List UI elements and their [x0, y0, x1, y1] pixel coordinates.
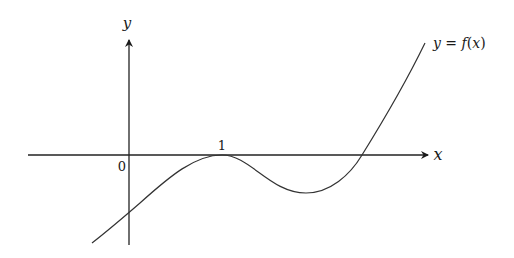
curve-label-eq: =: [441, 35, 462, 51]
curve-label-arg: x: [472, 35, 480, 51]
curve-label: y = f(x): [432, 35, 486, 51]
curve-f: [92, 43, 425, 243]
function-graph: y x 0 1 y = f(x): [0, 0, 514, 258]
origin-label: 0: [118, 159, 126, 174]
x-axis-label: x: [433, 145, 442, 164]
tick-label-1: 1: [218, 138, 226, 153]
curve-label-close: ): [480, 35, 485, 51]
y-axis-label: y: [122, 14, 132, 32]
